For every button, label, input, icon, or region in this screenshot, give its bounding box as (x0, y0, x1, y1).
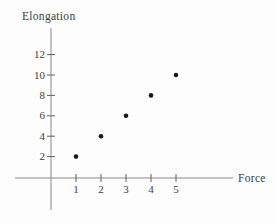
x-tick-label: 3 (123, 183, 129, 195)
y-axis-title: Elongation (22, 10, 75, 23)
x-axis: 12345 (15, 174, 233, 195)
y-axis: 24681012 (34, 28, 55, 210)
data-point (124, 114, 129, 119)
scatter-plot-figure: Elongation 24681012 12345 Force (0, 0, 276, 224)
data-points (74, 73, 179, 159)
data-point (149, 93, 154, 98)
y-tick-label: 12 (34, 48, 45, 60)
x-tick-label: 1 (73, 183, 79, 195)
y-tick-label: 6 (40, 109, 46, 121)
plot-canvas: Elongation 24681012 12345 Force (0, 0, 276, 224)
x-axis-title: Force (238, 172, 266, 184)
x-tick-label: 5 (173, 183, 179, 195)
data-point (74, 154, 79, 159)
y-axis-ticks: 24681012 (34, 48, 55, 162)
y-tick-label: 10 (34, 69, 46, 81)
x-tick-label: 2 (98, 183, 104, 195)
data-point (174, 73, 179, 78)
x-axis-ticks: 12345 (73, 174, 179, 195)
y-tick-label: 8 (40, 89, 46, 101)
y-tick-label: 2 (40, 150, 46, 162)
data-point (99, 134, 104, 139)
x-tick-label: 4 (148, 183, 154, 195)
y-tick-label: 4 (40, 130, 46, 142)
